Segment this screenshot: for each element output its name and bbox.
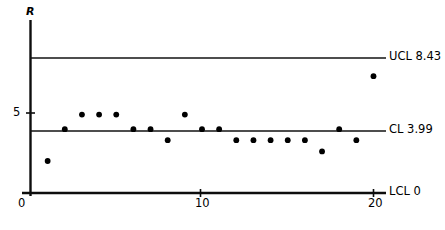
r-control-chart: R 5 0 10 20 UCL 8.43 CL 3.99 LCL 0	[0, 0, 445, 230]
lcl-label: LCL 0	[389, 186, 421, 198]
plot-area: R 5 0 10 20 UCL 8.43 CL 3.99 LCL 0	[0, 0, 445, 230]
data-point	[268, 137, 274, 143]
data-point	[216, 126, 222, 132]
data-point	[302, 137, 308, 143]
data-points-group	[45, 73, 377, 164]
data-point	[113, 112, 119, 118]
data-point	[131, 126, 137, 132]
data-point	[45, 158, 51, 164]
data-point	[165, 137, 171, 143]
data-point	[336, 126, 342, 132]
data-point	[182, 112, 188, 118]
data-point	[199, 126, 205, 132]
ucl-label: UCL 8.43	[389, 51, 441, 63]
x-tick-label-20: 20	[368, 198, 383, 210]
data-point	[79, 112, 85, 118]
y-tick-label-0: 0	[18, 198, 25, 210]
data-point	[148, 126, 154, 132]
y-axis-title: R	[26, 6, 34, 17]
data-point	[285, 137, 291, 143]
data-point	[251, 137, 257, 143]
data-point	[353, 137, 359, 143]
data-point	[233, 137, 239, 143]
x-tick-label-10: 10	[195, 198, 210, 210]
data-point	[371, 73, 377, 79]
data-point	[319, 149, 325, 155]
data-point	[62, 126, 68, 132]
y-tick-label-5: 5	[13, 107, 20, 119]
cl-label: CL 3.99	[389, 124, 433, 136]
data-point	[96, 112, 102, 118]
